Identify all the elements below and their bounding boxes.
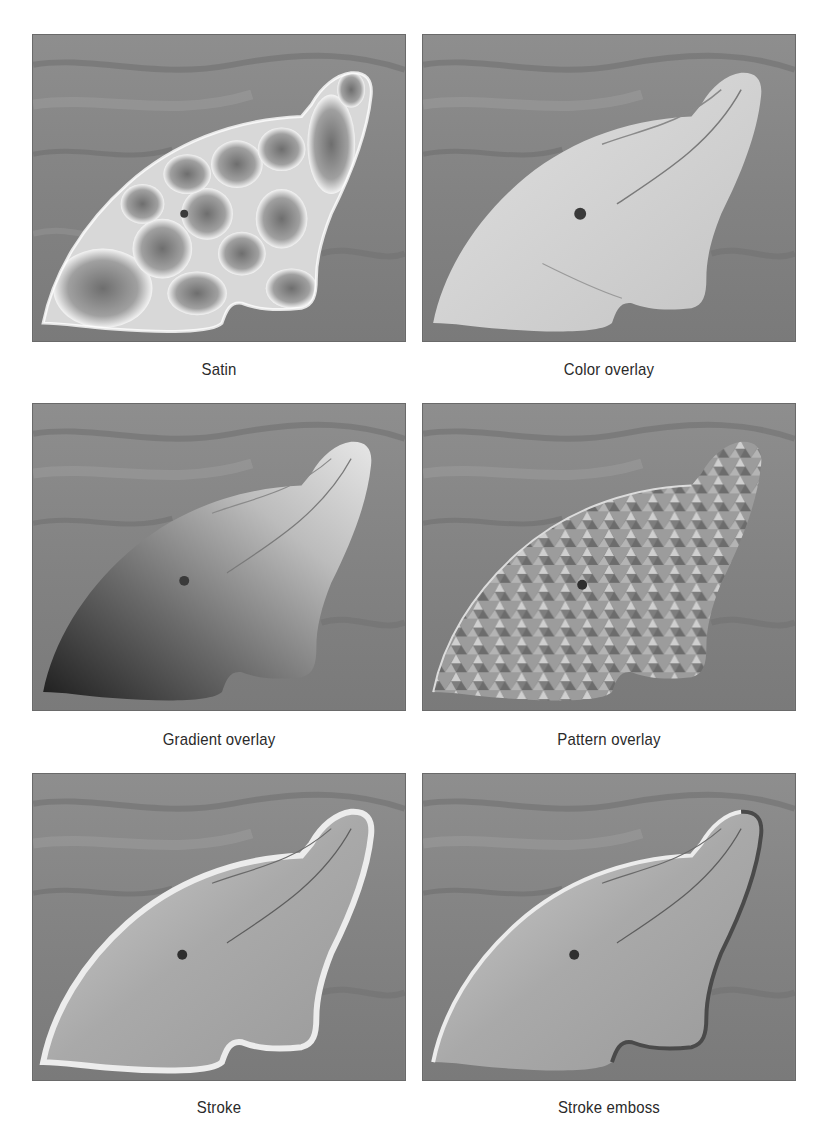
panel-satin — [32, 34, 406, 342]
dolphin-color-overlay-image — [423, 35, 795, 341]
panel-stroke-emboss — [422, 773, 796, 1081]
dolphin-gradient-overlay-image — [33, 404, 405, 710]
caption-stroke-emboss: Stroke emboss — [444, 1098, 773, 1118]
caption-stroke: Stroke — [54, 1098, 383, 1118]
dolphin-eye — [179, 576, 189, 586]
dolphin-stroke-emboss-image — [423, 774, 795, 1080]
caption-pattern-overlay: Pattern overlay — [444, 730, 773, 750]
panel-gradient-overlay — [32, 403, 406, 711]
panel-pattern-overlay — [422, 403, 796, 711]
dolphin-eye — [574, 208, 586, 220]
dolphin-eye — [577, 580, 587, 590]
dolphin-satin-image — [33, 35, 405, 341]
panel-stroke — [32, 773, 406, 1081]
dolphin-pattern-overlay-image — [423, 404, 795, 710]
dolphin-eye — [569, 950, 579, 960]
caption-satin: Satin — [54, 360, 383, 380]
dolphin-eye — [177, 950, 187, 960]
caption-gradient-overlay: Gradient overlay — [54, 730, 383, 750]
dolphin-eye — [180, 210, 188, 218]
panel-color-overlay — [422, 34, 796, 342]
caption-color-overlay: Color overlay — [444, 360, 773, 380]
dolphin-stroke-image — [33, 774, 405, 1080]
